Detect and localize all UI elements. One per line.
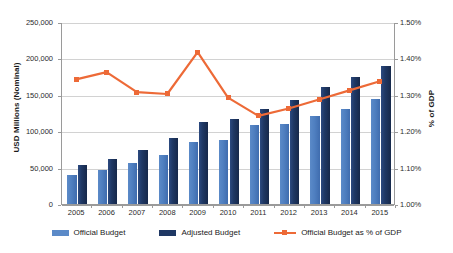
legend-swatch-bar-icon bbox=[159, 230, 176, 236]
x-axis-tick-label: 2008 bbox=[152, 208, 182, 217]
y-axis-left-tick-label: 150,000 bbox=[0, 92, 53, 100]
gdp-line-path bbox=[76, 52, 380, 116]
y-axis-right-tick-label: 1.50% bbox=[400, 19, 421, 27]
y-axis-right-tick-label: 1.00% bbox=[400, 201, 421, 209]
x-axis-tick-mark bbox=[395, 205, 396, 208]
x-axis-tick-label: 2007 bbox=[122, 208, 152, 217]
legend-item-adjusted-budget[interactable]: Adjusted Budget bbox=[159, 228, 240, 237]
x-axis-tick-label: 2006 bbox=[91, 208, 121, 217]
x-axis-tick-label: 2011 bbox=[243, 208, 273, 217]
y-axis-right-tick-mark bbox=[395, 132, 398, 133]
y-axis-right-tick-label: 1.30% bbox=[400, 92, 421, 100]
gdp-line-marker bbox=[104, 70, 109, 75]
line-series-group bbox=[61, 23, 395, 205]
y-axis-left-tick-label: 200,000 bbox=[0, 55, 53, 63]
gdp-line-marker bbox=[134, 90, 139, 95]
gdp-line-marker bbox=[347, 88, 352, 93]
chart-container: USD Millions (Nominal) % of GDP 050,0001… bbox=[0, 0, 453, 253]
x-axis-tick-label: 2009 bbox=[182, 208, 212, 217]
x-axis-tick-label: 2015 bbox=[365, 208, 395, 217]
chart-legend: Official Budget Adjusted Budget Official… bbox=[0, 228, 453, 237]
y-axis-right-tick-mark bbox=[395, 96, 398, 97]
gdp-line-marker bbox=[377, 79, 382, 84]
gdp-line-svg bbox=[61, 23, 395, 205]
y-axis-left-title: USD Millions (Nominal) bbox=[12, 53, 21, 163]
legend-label: Adjusted Budget bbox=[181, 228, 240, 237]
y-axis-right-tick-label: 1.20% bbox=[400, 128, 421, 136]
x-axis-tick-label: 2010 bbox=[213, 208, 243, 217]
gdp-line-marker bbox=[256, 113, 261, 118]
y-axis-left-tick-label: 50,000 bbox=[0, 165, 53, 173]
legend-swatch-bar-icon bbox=[52, 230, 69, 236]
gdp-line-marker bbox=[195, 50, 200, 55]
y-axis-left-tick-label: 0 bbox=[0, 201, 53, 209]
y-axis-left-tick-label: 100,000 bbox=[0, 128, 53, 136]
y-axis-right-tick-mark bbox=[395, 23, 398, 24]
y-axis-right-tick-mark bbox=[395, 169, 398, 170]
legend-label: Official Budget bbox=[74, 228, 126, 237]
gdp-line-marker bbox=[286, 106, 291, 111]
y-axis-right-tick-label: 1.10% bbox=[400, 165, 421, 173]
x-axis-tick-label: 2013 bbox=[304, 208, 334, 217]
y-axis-right-title: % of GDP bbox=[427, 74, 436, 144]
gdp-line-marker bbox=[317, 97, 322, 102]
y-axis-right-tick-label: 1.40% bbox=[400, 55, 421, 63]
gdp-line-marker bbox=[74, 77, 79, 82]
legend-swatch-line-icon bbox=[274, 230, 296, 236]
y-axis-right-tick-mark bbox=[395, 59, 398, 60]
x-axis-tick-label: 2014 bbox=[334, 208, 364, 217]
legend-item-gdp-percent[interactable]: Official Budget as % of GDP bbox=[274, 228, 401, 237]
gdp-line-marker bbox=[165, 91, 170, 96]
y-axis-left-tick-label: 250,000 bbox=[0, 19, 53, 27]
legend-item-official-budget[interactable]: Official Budget bbox=[52, 228, 126, 237]
x-axis-tick-label: 2012 bbox=[274, 208, 304, 217]
legend-label: Official Budget as % of GDP bbox=[301, 228, 401, 237]
gdp-line-marker bbox=[226, 95, 231, 100]
x-axis-tick-label: 2005 bbox=[61, 208, 91, 217]
